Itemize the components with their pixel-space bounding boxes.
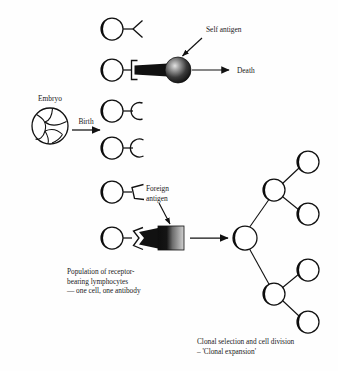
clone-l2-a bbox=[297, 151, 319, 173]
clone-root bbox=[233, 226, 257, 250]
population-caption-line2: bearing lymphocytes bbox=[67, 277, 128, 286]
foreign-antigen-block bbox=[158, 226, 184, 250]
embryo-cluster bbox=[32, 108, 68, 144]
diagram-canvas: Embryo Birth Self antigen Death Foreign … bbox=[0, 0, 338, 371]
clone-l1-top bbox=[263, 179, 285, 201]
clonal-selection-diagram: Embryo Birth Self antigen Death Foreign … bbox=[0, 0, 338, 371]
clone-l2-d bbox=[297, 311, 319, 333]
self-antigen-label: Self antigen bbox=[206, 25, 242, 34]
embryo-label: Embryo bbox=[38, 94, 62, 103]
clone-l1-bottom bbox=[263, 283, 285, 305]
foreign-antigen-label-line2: antigen bbox=[146, 194, 168, 203]
clone-l2-c bbox=[297, 259, 319, 281]
clonal-caption-line1: Clonal selection and cell division bbox=[197, 337, 295, 346]
population-caption-line1: Population of receptor- bbox=[67, 267, 135, 276]
diagram-background bbox=[0, 0, 338, 371]
clonal-caption-line2: – 'Clonal expansion' bbox=[196, 347, 257, 356]
clone-l2-b bbox=[297, 203, 319, 225]
birth-label: Birth bbox=[78, 117, 93, 126]
death-label: Death bbox=[237, 66, 255, 75]
self-antigen-sphere bbox=[165, 57, 191, 83]
foreign-antigen-label-line1: Foreign bbox=[146, 184, 169, 193]
population-caption-line3: — one cell, one antibody bbox=[66, 286, 141, 295]
